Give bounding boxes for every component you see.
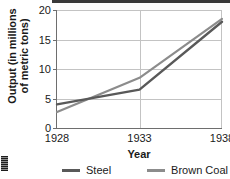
series-layer xyxy=(57,10,222,128)
ytick-label-5: 5 xyxy=(45,93,51,105)
ytick-label-15: 15 xyxy=(39,34,51,46)
y-axis-title: Output (in millions of metric tons) xyxy=(0,0,36,117)
plot-inner: 20 15 10 5 0 1928 1933 1938 xyxy=(57,10,222,128)
ytick-label-10: 10 xyxy=(39,63,51,75)
xtick-label-1933: 1933 xyxy=(127,132,151,144)
series-line-brown-coal xyxy=(57,19,222,112)
xtick-label-1928: 1928 xyxy=(45,132,69,144)
legend-swatch-brown-coal xyxy=(147,169,165,172)
legend-entry-steel: Steel xyxy=(62,164,111,176)
legend-label-brown-coal: Brown Coal xyxy=(171,164,228,176)
plot-area: 20 15 10 5 0 1928 1933 1938 xyxy=(56,10,222,129)
scan-artifact-mark xyxy=(1,156,8,171)
chart-legend: Steel Brown Coal xyxy=(56,164,230,176)
y-axis-title-line-1: Output (in millions xyxy=(6,8,18,103)
series-line-steel xyxy=(57,22,222,105)
tick-y-0 xyxy=(53,128,57,129)
x-axis-title: Year xyxy=(56,148,222,160)
page-edge-bar xyxy=(52,0,230,3)
legend-label-steel: Steel xyxy=(86,164,111,176)
y-axis-title-line-2: of metric tons) xyxy=(18,19,30,94)
legend-entry-brown-coal: Brown Coal xyxy=(147,164,228,176)
xtick-label-1938: 1938 xyxy=(210,132,230,144)
ytick-label-20: 20 xyxy=(39,4,51,16)
line-chart-figure: Output (in millions of metric tons) 20 1… xyxy=(0,0,230,179)
legend-swatch-steel xyxy=(62,169,80,172)
